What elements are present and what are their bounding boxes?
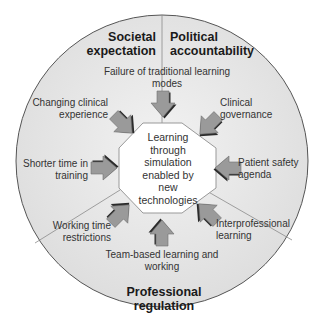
driver-team-based-learning: Team-based learning and working bbox=[100, 249, 224, 272]
sector-professional-label: Professional regulation bbox=[102, 285, 226, 313]
center-label: Learning through simulation enabled by n… bbox=[122, 131, 214, 206]
sector-societal-label: Societal expectation bbox=[70, 30, 156, 58]
driver-clinical-governance: Clinical governance bbox=[220, 97, 300, 120]
driver-shorter-time-training: Shorter time in training bbox=[10, 158, 88, 181]
driver-patient-safety-agenda: Patient safety agenda bbox=[238, 157, 318, 180]
driver-interprofessional-learning: Interprofessional learning bbox=[216, 218, 316, 241]
driver-changing-clinical-experience: Changing clinical experience bbox=[20, 97, 108, 120]
sector-political-label: Political accountability bbox=[170, 30, 280, 58]
driver-working-time-restrictions: Working time restrictions bbox=[20, 220, 111, 243]
driver-failure-traditional-learning: Failure of traditional learning modes bbox=[92, 66, 242, 89]
